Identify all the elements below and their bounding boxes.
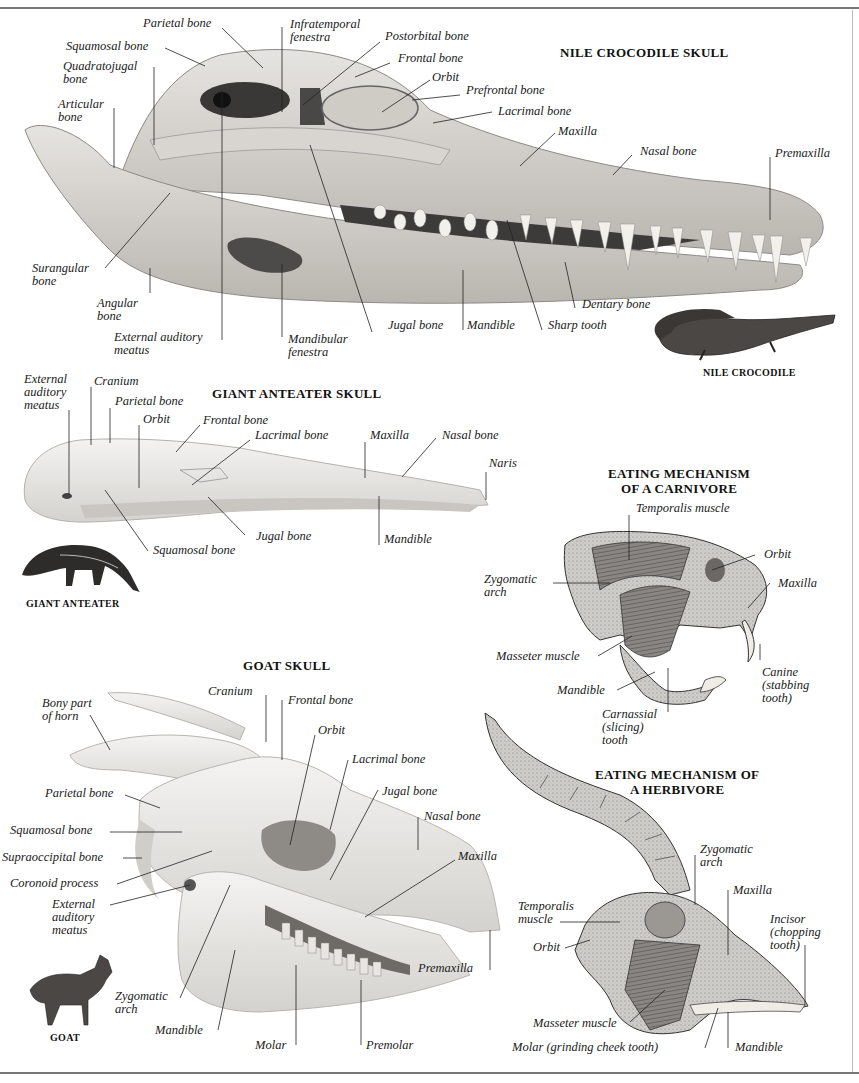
label-goat-frontal: Frontal bone xyxy=(288,694,353,707)
label-carnivore-maxilla: Maxilla xyxy=(778,577,817,590)
label-carnivore-carnassial: Carnassial (slicing) tooth xyxy=(602,708,657,747)
label-anteater-squamosal: Squamosal bone xyxy=(153,544,235,557)
herbivore-skull-illustration xyxy=(485,713,808,1034)
label-croc-angular: Angular bone xyxy=(97,297,138,323)
label-herbivore-masseter: Masseter muscle xyxy=(533,1017,617,1030)
label-croc-infratemporal: Infratemporal fenestra xyxy=(290,18,360,44)
label-carnivore-zygomatic: Zygomatic arch xyxy=(484,573,537,599)
label-goat-orbit: Orbit xyxy=(318,724,345,737)
label-herbivore-orbit: Orbit xyxy=(533,941,560,954)
label-croc-articular: Articular bone xyxy=(58,98,104,124)
herbivore-title: EATING MECHANISM OF A HERBIVORE xyxy=(595,767,759,797)
label-anteater-naris: Naris xyxy=(489,457,517,470)
label-croc-dentary: Dentary bone xyxy=(582,298,650,311)
crocodile-skull-illustration xyxy=(25,50,823,304)
label-anteater-lacrimal: Lacrimal bone xyxy=(255,429,328,442)
giant-anteater-illustration xyxy=(22,545,140,592)
label-anteater-parietal: Parietal bone xyxy=(115,395,183,408)
goat-skull-title: GOAT SKULL xyxy=(243,658,330,673)
label-croc-external-auditory-meatus: External auditory meatus xyxy=(114,331,203,357)
label-croc-quadratojugal: Quadratojugal bone xyxy=(63,60,137,86)
label-croc-orbit: Orbit xyxy=(432,71,459,84)
label-carnivore-masseter: Masseter muscle xyxy=(496,650,580,663)
label-goat-coronoid: Coronoid process xyxy=(10,877,98,890)
label-anteater-external-auditory-meatus: External auditory meatus xyxy=(24,373,67,412)
label-herbivore-mandible: Mandible xyxy=(735,1041,783,1054)
label-goat-nasal: Nasal bone xyxy=(424,810,481,823)
caption-giant-anteater: GIANT ANTEATER xyxy=(26,598,120,609)
label-goat-horn: Bony part of horn xyxy=(42,697,92,723)
label-carnivore-temporalis: Temporalis muscle xyxy=(636,502,730,515)
label-goat-maxilla: Maxilla xyxy=(458,850,497,863)
label-croc-lacrimal: Lacrimal bone xyxy=(498,105,571,118)
label-croc-surangular: Surangular bone xyxy=(32,262,89,288)
label-croc-mandibular-fenestra: Mandibular fenestra xyxy=(288,333,348,359)
label-anteater-frontal: Frontal bone xyxy=(203,414,268,427)
label-herbivore-temporalis: Temporalis muscle xyxy=(518,900,574,926)
label-croc-prefrontal: Prefrontal bone xyxy=(466,84,545,97)
label-croc-nasal: Nasal bone xyxy=(640,145,697,158)
label-herbivore-molar: Molar (grinding cheek tooth) xyxy=(512,1041,658,1054)
label-goat-zygomatic: Zygomatic arch xyxy=(115,990,168,1016)
caption-nile-crocodile: NILE CROCODILE xyxy=(703,367,796,378)
label-croc-frontal: Frontal bone xyxy=(398,52,463,65)
label-croc-maxilla: Maxilla xyxy=(558,125,597,138)
label-goat-jugal: Jugal bone xyxy=(382,785,437,798)
crocodile-skull-title: NILE CROCODILE SKULL xyxy=(560,45,729,60)
label-goat-squamosal: Squamosal bone xyxy=(10,824,92,837)
label-croc-sharp-tooth: Sharp tooth xyxy=(548,319,607,332)
carnivore-title: EATING MECHANISM OF A CARNIVORE xyxy=(608,466,750,496)
label-croc-premaxilla: Premaxilla xyxy=(775,147,830,160)
label-croc-postorbital: Postorbital bone xyxy=(385,30,469,43)
label-goat-parietal: Parietal bone xyxy=(45,787,113,800)
goat-illustration xyxy=(30,955,112,1025)
nile-crocodile-illustration xyxy=(655,309,835,360)
label-carnivore-mandible: Mandible xyxy=(557,684,605,697)
label-anteater-orbit: Orbit xyxy=(143,413,170,426)
label-goat-molar: Molar xyxy=(255,1039,286,1052)
label-herbivore-maxilla: Maxilla xyxy=(733,884,772,897)
label-croc-jugal: Jugal bone xyxy=(388,319,443,332)
anteater-skull-illustration xyxy=(24,439,488,522)
label-herbivore-incisor: Incisor (chopping tooth) xyxy=(770,913,821,952)
label-anteater-jugal: Jugal bone xyxy=(256,530,311,543)
label-goat-lacrimal: Lacrimal bone xyxy=(352,753,425,766)
caption-goat: GOAT xyxy=(50,1032,80,1043)
label-anteater-maxilla: Maxilla xyxy=(370,429,409,442)
label-goat-premaxilla: Premaxilla xyxy=(418,962,473,975)
label-carnivore-canine: Canine (stabbing tooth) xyxy=(762,666,809,705)
carnivore-skull-illustration xyxy=(564,531,766,704)
label-goat-supraoccipital: Supraoccipital bone xyxy=(2,851,103,864)
label-goat-cranium: Cranium xyxy=(208,685,252,698)
label-croc-mandible: Mandible xyxy=(467,319,515,332)
anteater-skull-title: GIANT ANTEATER SKULL xyxy=(212,386,382,401)
label-anteater-mandible: Mandible xyxy=(384,533,432,546)
label-herbivore-zygomatic: Zygomatic arch xyxy=(700,843,753,869)
label-goat-mandible: Mandible xyxy=(155,1024,203,1037)
label-anteater-nasal: Nasal bone xyxy=(442,429,499,442)
label-croc-squamosal: Squamosal bone xyxy=(66,40,148,53)
label-anteater-cranium: Cranium xyxy=(94,375,138,388)
label-goat-external-auditory-meatus: External auditory meatus xyxy=(52,898,95,937)
label-croc-parietal: Parietal bone xyxy=(143,17,211,30)
label-carnivore-orbit: Orbit xyxy=(764,548,791,561)
label-goat-premolar: Premolar xyxy=(366,1039,413,1052)
